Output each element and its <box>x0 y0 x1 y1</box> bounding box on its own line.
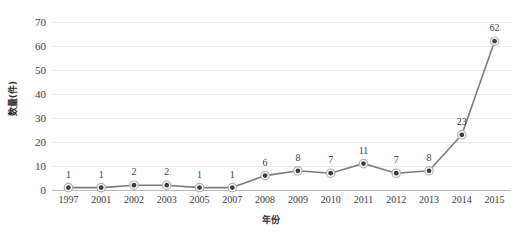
y-axis-tick-label: 60 <box>4 41 46 52</box>
data-point-marker <box>394 171 399 176</box>
data-point-label: 1 <box>212 169 252 181</box>
y-axis-tick-labels: 706050403020100 <box>0 22 46 190</box>
y-axis-tick-label: 40 <box>4 89 46 100</box>
data-point-marker <box>263 173 268 178</box>
data-point-marker <box>295 168 300 173</box>
x-axis-line <box>52 190 511 191</box>
y-axis-tick-label: 0 <box>4 185 46 196</box>
y-axis-tick-label: 70 <box>4 17 46 28</box>
y-axis-tick-label: 50 <box>4 65 46 76</box>
data-point-label: 8 <box>409 152 449 164</box>
x-axis-title: 年份 <box>0 213 519 226</box>
y-axis-tick-label: 10 <box>4 161 46 172</box>
data-point-marker <box>197 185 202 190</box>
data-point-marker <box>492 39 497 44</box>
data-point-marker <box>328 171 333 176</box>
data-point-marker <box>164 183 169 188</box>
line-chart: 数量(件) 706050403020100 11221168711782362 … <box>0 0 519 237</box>
data-point-label: 23 <box>442 116 482 128</box>
data-point-marker <box>427 168 432 173</box>
data-point-label: 62 <box>475 22 515 34</box>
data-point-marker <box>66 185 71 190</box>
y-axis-tick-label: 20 <box>4 137 46 148</box>
x-axis-tick-labels: 1997200120022003200520072008200920102011… <box>52 193 511 209</box>
data-point-marker <box>459 132 464 137</box>
x-axis-tick-label: 2015 <box>472 193 518 207</box>
y-axis-tick-label: 30 <box>4 113 46 124</box>
data-point-marker <box>99 185 104 190</box>
data-point-marker <box>230 185 235 190</box>
data-point-marker <box>132 183 137 188</box>
plot-area: 11221168711782362 <box>52 22 511 190</box>
data-point-marker <box>361 161 366 166</box>
